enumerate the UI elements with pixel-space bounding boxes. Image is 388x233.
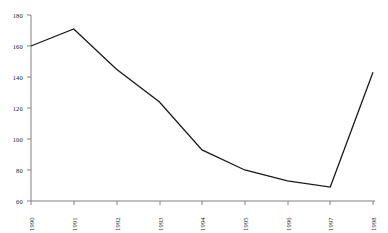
y-tick-label-100: 100	[1, 136, 23, 143]
x-tick-label-1996: 1996	[285, 217, 292, 231]
x-tick-label-1994: 1994	[199, 217, 206, 231]
y-tick-label-80: 80	[1, 167, 23, 174]
y-axis-ticks	[27, 15, 31, 201]
x-tick-label-1993: 1993	[157, 217, 164, 231]
x-tick-label-1998: 1998	[370, 217, 377, 231]
plot-area	[0, 0, 388, 233]
line-chart: 180 160 140 120 100 80 60 1990 1991 1992…	[0, 0, 388, 233]
y-tick-label-120: 120	[1, 105, 23, 112]
y-tick-label-140: 140	[1, 74, 23, 81]
x-tick-label-1992: 1992	[114, 217, 121, 231]
y-tick-label-180: 180	[1, 12, 23, 19]
y-tick-label-60: 60	[1, 198, 23, 205]
x-tick-label-1991: 1991	[71, 217, 78, 231]
x-tick-label-1995: 1995	[242, 217, 249, 231]
y-tick-label-160: 160	[1, 43, 23, 50]
x-tick-label-1990: 1990	[28, 217, 35, 231]
data-series-line	[31, 29, 373, 187]
x-axis-ticks	[31, 201, 373, 205]
x-tick-label-1997: 1997	[327, 217, 334, 231]
